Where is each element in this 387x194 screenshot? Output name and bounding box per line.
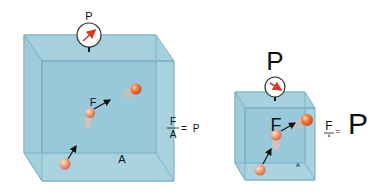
particle-icon: [255, 165, 266, 176]
left-eq-numerator: F: [170, 116, 176, 127]
left-equation: F A = P: [167, 116, 200, 140]
right-eq-result: P: [348, 107, 368, 140]
right-eq-numerator: F: [325, 119, 332, 133]
pressure-diagram: P F A F A = P P: [0, 0, 387, 194]
particle-icon: [301, 114, 313, 126]
particle-icon: [60, 159, 71, 170]
right-gauge-label: P: [266, 46, 283, 76]
particle-icon: [85, 108, 95, 118]
left-eq-result: P: [193, 123, 200, 134]
right-area-label: A: [296, 162, 300, 168]
right-eq-denominator: A: [328, 134, 330, 138]
particle-icon: [131, 84, 142, 95]
left-container: [24, 35, 174, 181]
left-force-label: F: [90, 96, 97, 108]
right-equation: F A = P: [324, 107, 368, 140]
left-gauge-label: P: [85, 10, 92, 22]
left-eq-equals: =: [181, 123, 187, 134]
left-eq-denominator: A: [170, 129, 177, 140]
right-force-label: F: [271, 115, 282, 135]
right-eq-equals: =: [335, 126, 340, 136]
left-area-label: A: [118, 153, 126, 165]
